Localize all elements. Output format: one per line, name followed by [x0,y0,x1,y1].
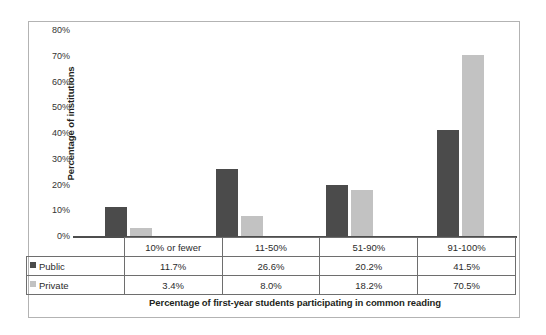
data-table: 10% or fewer 11-50% 51-90% 91-100% Publi… [26,237,516,295]
table-row-categories: 10% or fewer 11-50% 51-90% 91-100% [27,238,516,257]
legend-item-private: Private [27,276,125,295]
legend-swatch-icon [30,262,36,268]
bar-public-3 [326,185,348,237]
bar-group [184,31,295,237]
bar-private-2 [241,216,263,237]
legend-swatch-icon [30,281,36,287]
bar-group [405,31,516,237]
bar-public-4 [437,130,459,237]
value-cell: 26.6% [222,257,320,276]
bar-public-1 [105,207,127,237]
table-row: Private 3.4% 8.0% 18.2% 70.5% [27,276,516,295]
plot-area [73,31,516,237]
y-tick-label: 60% [38,77,70,87]
y-axis-tick-labels: 80% 70% 60% 50% 40% 30% 20% 10% 0% [38,25,70,243]
y-tick-label: 80% [38,25,70,35]
y-tick-label: 70% [38,51,70,61]
table-corner-cell [27,238,125,257]
bar-public-2 [216,169,238,237]
table-row: Public 11.7% 26.6% 20.2% 41.5% [27,257,516,276]
bar-group [73,31,184,237]
category-header-cell: 11-50% [222,238,320,257]
legend-item-public: Public [27,257,125,276]
value-cell: 11.7% [124,257,222,276]
bar-private-4 [462,55,484,237]
value-cell: 70.5% [418,276,516,295]
value-cell: 18.2% [320,276,418,295]
bar-group [295,31,406,237]
category-header-cell: 51-90% [320,238,418,257]
value-cell: 20.2% [320,257,418,276]
x-axis-title: Percentage of first-year students partic… [73,297,517,308]
value-cell: 41.5% [418,257,516,276]
bar-private-3 [351,190,373,237]
y-tick-label: 20% [38,180,70,190]
chart-figure: Percentage of institutions 80% 70% 60% 5… [0,0,546,335]
category-header-cell: 91-100% [418,238,516,257]
legend-label: Private [39,277,69,294]
y-tick-label: 50% [38,102,70,112]
legend-label: Public [39,258,65,275]
y-tick-label: 40% [38,128,70,138]
y-tick-label: 10% [38,205,70,215]
value-cell: 8.0% [222,276,320,295]
value-cell: 3.4% [124,276,222,295]
y-tick-label: 30% [38,154,70,164]
category-header-cell: 10% or fewer [124,238,222,257]
